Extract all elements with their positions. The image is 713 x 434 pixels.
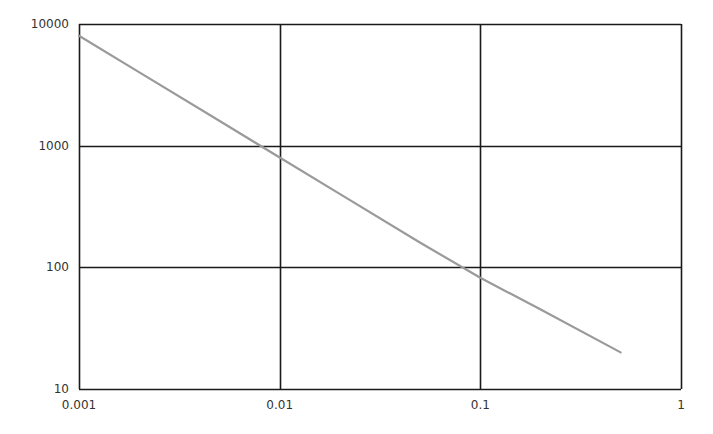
- y-axis-ticks: 10100100010000: [31, 17, 69, 396]
- series-line: [79, 36, 621, 353]
- y-tick-label: 10000: [31, 17, 69, 31]
- x-tick-label: 0.01: [266, 398, 293, 412]
- log-log-line-chart: 0.0010.010.11 10100100010000: [0, 0, 713, 434]
- x-axis-ticks: 0.0010.010.11: [62, 398, 685, 412]
- y-tick-label: 100: [46, 260, 69, 274]
- y-tick-label: 1000: [38, 139, 69, 153]
- y-tick-label: 10: [54, 382, 69, 396]
- x-tick-label: 1: [677, 398, 685, 412]
- x-tick-label: 0.1: [471, 398, 490, 412]
- data-series: [79, 36, 621, 353]
- x-tick-label: 0.001: [62, 398, 96, 412]
- grid-lines: [79, 24, 682, 390]
